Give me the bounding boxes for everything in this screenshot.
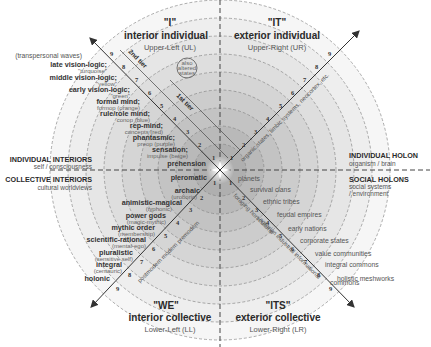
svg-text:interior collective: interior collective	[129, 312, 212, 323]
svg-text:survival clans: survival clans	[250, 186, 291, 193]
side-label-collective-interiors: COLLECTIVE INTERIORS cultural worldviews	[5, 175, 92, 191]
side-label-individual-interiors: INDIVIDUAL INTERIORS self / consciousnes…	[10, 155, 93, 170]
svg-text:(transpersonal waves): (transpersonal waves)	[15, 52, 82, 60]
svg-text:"I": "I"	[164, 17, 177, 28]
svg-text:pleromatic: pleromatic	[171, 173, 207, 182]
svg-text:"IT": "IT"	[268, 17, 287, 28]
svg-text:exterior collective: exterior collective	[235, 312, 320, 323]
svg-text:Upper-Left (UL): Upper-Left (UL)	[144, 43, 197, 52]
svg-text:Lower-Right (LR): Lower-Right (LR)	[249, 325, 307, 334]
svg-text:feudal empires: feudal empires	[277, 211, 322, 219]
svg-text:cultural worldviews: cultural worldviews	[37, 184, 92, 191]
svg-text:1: 1	[212, 154, 215, 161]
svg-text:holistic meshworks: holistic meshworks	[337, 275, 395, 282]
svg-text:early nations: early nations	[288, 225, 327, 233]
svg-text:COLLECTIVE INTERIORS: COLLECTIVE INTERIORS	[5, 175, 92, 184]
integral-quadrant-diagram: "I" interior individual Upper-Left (UL) …	[0, 0, 431, 347]
svg-text:1: 1	[229, 179, 232, 186]
svg-text:states: states	[179, 70, 195, 76]
svg-text:planets: planets	[238, 175, 261, 183]
svg-text:1: 1	[230, 154, 233, 161]
svg-text:holonic: holonic	[84, 274, 110, 283]
svg-text:prehension: prehension	[167, 159, 206, 168]
svg-text:Upper-Right (UR): Upper-Right (UR)	[248, 43, 307, 52]
svg-text:value communities: value communities	[315, 250, 372, 257]
svg-text:"ITS": "ITS"	[265, 300, 290, 311]
svg-text:Lower-Left (LL): Lower-Left (LL)	[145, 325, 196, 334]
svg-text:corporate states: corporate states	[300, 237, 349, 245]
side-label-individual-holon: INDIVIDUAL HOLON organism / brain	[349, 151, 418, 168]
svg-text:/ environment: / environment	[349, 190, 389, 197]
svg-text:INDIVIDUAL HOLON: INDIVIDUAL HOLON	[349, 151, 418, 160]
side-label-social-holons: SOCIAL HOLONS social systems / environme…	[349, 175, 409, 197]
svg-text:integral commons: integral commons	[325, 261, 379, 269]
svg-text:2: 2	[198, 141, 201, 148]
svg-text:2: 2	[200, 194, 203, 201]
svg-text:interior individual: interior individual	[124, 30, 208, 41]
svg-text:1: 1	[213, 179, 216, 186]
svg-text:organism / brain: organism / brain	[349, 160, 396, 168]
svg-text:2: 2	[242, 141, 245, 148]
svg-text:"WE": "WE"	[153, 300, 179, 311]
svg-text:self / consciousness: self / consciousness	[34, 163, 93, 170]
svg-text:exterior individual: exterior individual	[234, 30, 320, 41]
svg-text:2: 2	[242, 194, 245, 201]
altered-states-badge: also altered states	[177, 58, 197, 78]
svg-text:ethnic tribes: ethnic tribes	[263, 198, 300, 205]
